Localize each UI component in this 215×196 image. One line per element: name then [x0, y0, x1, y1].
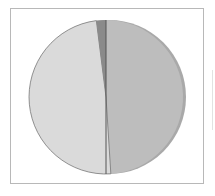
pie-chart	[0, 0, 215, 196]
pie-slice-1[interactable]	[106, 20, 183, 174]
pie-slice-2[interactable]	[29, 21, 111, 174]
